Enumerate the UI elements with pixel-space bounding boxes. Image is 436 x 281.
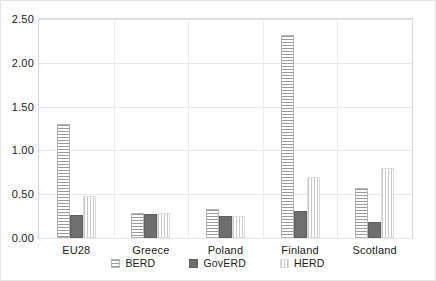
bar-scotland-herd[interactable] [381, 168, 394, 238]
bar-group-poland: Poland [188, 19, 263, 238]
x-axis-label-greece: Greece [114, 244, 189, 256]
bar-finland-berd[interactable] [281, 35, 294, 238]
plot-area: 0.000.501.001.502.002.50 EU28GreecePolan… [38, 18, 413, 239]
bar-eu28-herd[interactable] [83, 196, 96, 238]
x-axis-label-poland: Poland [188, 244, 263, 256]
legend-label: BERD [125, 257, 155, 269]
bar-group-eu28: EU28 [39, 19, 114, 238]
chart-legend: BERDGovERDHERD [1, 257, 435, 269]
bar-group-greece: Greece [114, 19, 189, 238]
legend-item-berd[interactable]: BERD [111, 257, 155, 269]
bar-poland-berd[interactable] [206, 209, 219, 238]
bar-eu28-berd[interactable] [57, 124, 70, 238]
legend-item-goverd[interactable]: GovERD [189, 257, 246, 269]
bar-scotland-berd[interactable] [355, 188, 368, 238]
y-axis-tick-label: 2.00 [12, 57, 34, 69]
chart-canvas: 0.000.501.001.502.002.50 EU28GreecePolan… [0, 0, 436, 281]
bar-scotland-goverd[interactable] [368, 222, 381, 238]
y-axis-tick-label: 0.00 [12, 232, 34, 244]
legend-item-herd[interactable]: HERD [280, 257, 325, 269]
y-axis-tick-label: 2.50 [12, 13, 34, 25]
bar-groups: EU28GreecePolandFinlandScotland [39, 19, 412, 238]
x-axis-label-finland: Finland [263, 244, 338, 256]
legend-label: GovERD [203, 257, 246, 269]
legend-swatch-goverd-icon [189, 259, 198, 268]
legend-swatch-berd-icon [111, 259, 120, 268]
bar-greece-herd[interactable] [157, 213, 170, 238]
x-axis-label-scotland: Scotland [337, 244, 412, 256]
y-axis-tick-label: 0.50 [12, 188, 34, 200]
legend-label: HERD [294, 257, 325, 269]
bar-greece-goverd[interactable] [144, 214, 157, 238]
bar-eu28-goverd[interactable] [70, 215, 83, 238]
y-axis-tick-label: 1.50 [12, 101, 34, 113]
bar-poland-goverd[interactable] [219, 216, 232, 238]
bar-finland-goverd[interactable] [294, 211, 307, 238]
y-axis-tick-label: 1.00 [12, 144, 34, 156]
gridline [39, 238, 412, 239]
bar-group-finland: Finland [263, 19, 338, 238]
bar-group-scotland: Scotland [337, 19, 412, 238]
bar-greece-berd[interactable] [131, 213, 144, 238]
legend-swatch-herd-icon [280, 259, 289, 268]
bar-poland-herd[interactable] [232, 216, 245, 238]
x-axis-label-eu28: EU28 [39, 244, 114, 256]
bar-finland-herd[interactable] [307, 177, 320, 238]
